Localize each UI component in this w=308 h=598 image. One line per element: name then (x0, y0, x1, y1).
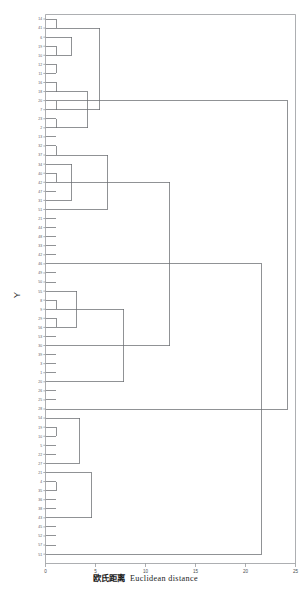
leaf-label: 7 (40, 108, 42, 112)
leaf-label: 40 (38, 172, 42, 176)
leaf-label: 3 (40, 362, 42, 366)
leaf-label: 42 (38, 253, 42, 257)
y-axis-title: Y (11, 291, 22, 298)
leaf-label: 26 (38, 389, 42, 393)
leaf-label: 54 (38, 416, 42, 420)
x-axis-tick-label: 0 (44, 569, 47, 574)
leaf-label: 11 (39, 72, 43, 76)
leaf-label: 14 (38, 17, 42, 21)
leaf-label: 44 (38, 226, 42, 230)
leaf-label: 45 (38, 525, 42, 529)
leaf-label: 42 (38, 181, 42, 185)
dendrogram-svg: 1441619101211161820723213323734404247315… (0, 0, 308, 598)
leaf-label: 23 (38, 117, 42, 121)
leaf-label: 47 (38, 190, 42, 194)
leaf-label: 19 (38, 45, 42, 49)
leaf-label: 53 (38, 335, 42, 339)
leaf-label: 8 (40, 299, 42, 303)
dendrogram-chart: 1441619101211161820723213323734404247315… (0, 0, 308, 598)
leaf-label: 22 (38, 453, 42, 457)
leaf-label: 31 (38, 199, 42, 203)
leaf-label: 21 (38, 217, 42, 221)
leaf-label: 51 (38, 208, 42, 212)
leaf-label: 1 (40, 371, 42, 375)
leaf-label: 27 (38, 462, 42, 466)
leaf-label: 55 (38, 290, 42, 294)
leaf-label: 33 (38, 244, 42, 248)
leaf-label: 43 (38, 516, 42, 520)
leaf-label: 30 (38, 344, 42, 348)
leaf-label: 35 (38, 489, 42, 493)
leaf-label: 32 (38, 144, 42, 148)
leaf-label: 38 (38, 507, 42, 511)
leaf-label: 6 (40, 36, 42, 40)
leaf-label: 46 (38, 262, 42, 266)
leaf-label: 16 (38, 81, 42, 85)
leaf-label: 10 (38, 54, 42, 58)
leaf-label: 20 (38, 380, 42, 384)
x-axis-tick-label: 20 (243, 569, 249, 574)
leaf-label: 4 (40, 480, 42, 484)
leaf-label: 37 (38, 153, 42, 157)
x-axis-tick-label: 25 (293, 569, 299, 574)
leaf-label: 20 (38, 99, 42, 103)
leaf-label: 21 (38, 471, 42, 475)
leaf-label: 48 (38, 235, 42, 239)
leaf-label: 25 (38, 398, 42, 402)
leaf-label: 2 (40, 126, 42, 130)
leaf-label: 49 (38, 271, 42, 275)
leaf-label: 13 (38, 135, 42, 139)
leaf-label: 52 (38, 534, 42, 538)
leaf-label: 34 (38, 163, 42, 167)
leaf-label: 50 (38, 280, 42, 284)
leaf-label: 9 (40, 308, 42, 312)
leaf-label: 10 (38, 435, 42, 439)
x-axis-title-cjk: 欧氏距离 (93, 573, 126, 583)
leaf-label: 19 (38, 426, 42, 430)
x-axis-title-en: Euclidean distance (130, 574, 198, 583)
leaf-label: 18 (38, 90, 42, 94)
leaf-label: 5 (40, 444, 42, 448)
leaf-label: 57 (38, 543, 42, 547)
leaf-label: 29 (38, 317, 42, 321)
leaf-label: 36 (38, 498, 42, 502)
leaf-label: 28 (38, 407, 42, 411)
leaf-label: 56 (38, 326, 42, 330)
leaf-label: 41 (38, 26, 42, 30)
leaf-label: 51 (38, 553, 42, 557)
leaf-label: 39 (38, 353, 42, 357)
leaf-label: 12 (38, 63, 42, 67)
